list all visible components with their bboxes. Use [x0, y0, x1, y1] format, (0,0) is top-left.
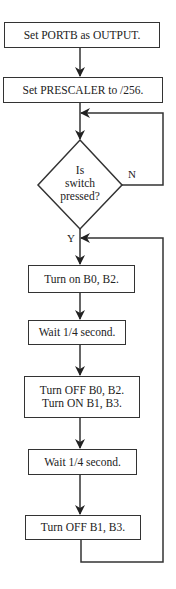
step-line: Turn ON B1, B3.	[42, 397, 122, 410]
decision-switch-pressed: Is switch pressed?	[44, 164, 116, 203]
step-label: Set PRESCALER to /256.	[23, 84, 144, 97]
decision-line: Is	[44, 164, 116, 177]
step-wait-1: Wait 1/4 second.	[28, 320, 126, 345]
decision-line: pressed?	[44, 190, 116, 203]
step-toggle-bits: Turn OFF B0, B2. Turn ON B1, B3.	[24, 376, 140, 418]
decision-line: switch	[44, 177, 116, 190]
step-label: Wait 1/4 second.	[44, 456, 121, 469]
step-set-portb-output: Set PORTB as OUTPUT.	[4, 22, 160, 48]
step-label: Turn on B0, B2.	[44, 273, 119, 286]
step-label: Wait 1/4 second.	[39, 326, 116, 339]
step-label: Set PORTB as OUTPUT.	[24, 29, 141, 42]
step-label: Turn OFF B1, B3.	[41, 521, 125, 534]
step-turn-on-b0-b2: Turn on B0, B2.	[28, 265, 135, 293]
step-turn-off-b1-b3: Turn OFF B1, B3.	[25, 515, 141, 540]
step-set-prescaler: Set PRESCALER to /256.	[3, 77, 163, 103]
step-line: Turn OFF B0, B2.	[40, 384, 124, 397]
no-branch-label: N	[128, 168, 136, 180]
yes-branch-label: Y	[67, 232, 75, 244]
step-wait-2: Wait 1/4 second.	[28, 449, 137, 475]
